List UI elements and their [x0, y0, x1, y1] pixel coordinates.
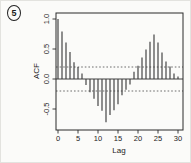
acf-figure: 5 ACF Lag 051015202530-0.50.00.51.0 — [0, 0, 191, 163]
plot-box — [56, 13, 183, 130]
x-tick-label: 5 — [76, 135, 80, 143]
x-tick-label: 15 — [114, 135, 122, 143]
y-tick-label: -0.5 — [43, 103, 51, 116]
y-tick-label: 1.0 — [43, 14, 51, 24]
x-tick-label: 10 — [94, 135, 102, 143]
x-tick-label: 0 — [56, 135, 60, 143]
y-tick-label: 0.0 — [43, 74, 51, 84]
x-tick-label: 20 — [134, 135, 142, 143]
x-axis-title: Lag — [112, 147, 125, 155]
x-tick-label: 25 — [154, 135, 162, 143]
x-tick-label: 30 — [174, 135, 182, 143]
y-axis-title: ACF — [33, 63, 41, 79]
y-tick-label: 0.5 — [43, 44, 51, 54]
